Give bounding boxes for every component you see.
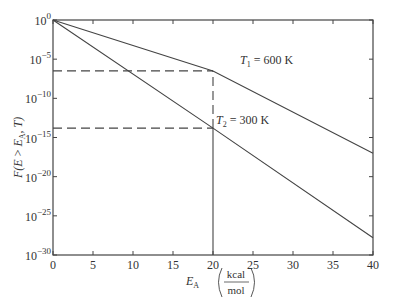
y-tick-label: 10−5 xyxy=(29,50,51,67)
y-tick-label: 100 xyxy=(35,11,52,28)
left-paren xyxy=(219,268,223,297)
y-axis-label: F(E > EA, T) xyxy=(11,117,27,179)
x-tick-label: 25 xyxy=(247,258,259,272)
x-tick-label: 15 xyxy=(167,258,179,272)
y-axis-ticks: 10010−510−1010−1510−2010−2510−30 xyxy=(25,11,373,263)
x-axis-ticks: 0510152025303540 xyxy=(50,20,379,272)
label-t1: T1 = 600 K xyxy=(240,53,293,69)
x-tick-label: 10 xyxy=(127,258,139,272)
right-paren xyxy=(251,268,255,297)
y-tick-label: 10−30 xyxy=(25,246,52,263)
guide-lines xyxy=(53,71,213,255)
x-tick-label: 35 xyxy=(327,258,339,272)
x-unit-numerator: kcal xyxy=(227,268,245,280)
label-t2: T2 = 300 K xyxy=(216,113,269,129)
y-tick-label: 10−20 xyxy=(25,168,52,185)
y-tick-label: 10−25 xyxy=(25,207,52,224)
y-tick-label: 10−10 xyxy=(25,89,52,106)
activation-energy-chart: 0510152025303540 10010−510−1010−1510−201… xyxy=(0,0,393,305)
x-tick-label: 40 xyxy=(367,258,379,272)
y-tick-label: 10−15 xyxy=(25,129,52,146)
x-tick-label: 30 xyxy=(287,258,299,272)
x-tick-label: 5 xyxy=(90,258,96,272)
x-axis-label: EA xyxy=(185,274,199,290)
x-tick-label: 20 xyxy=(207,258,219,272)
x-tick-label: 0 xyxy=(50,258,56,272)
x-unit-denominator: mol xyxy=(227,284,244,296)
